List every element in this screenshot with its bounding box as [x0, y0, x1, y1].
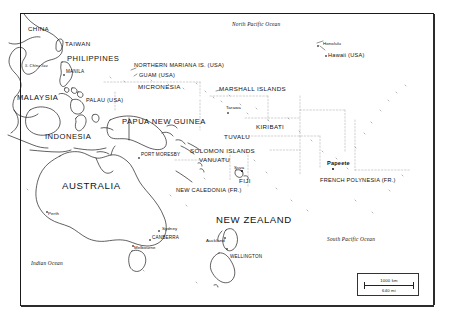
territory-label-northern-mariana-is: NORTHERN MARIANA IS. (USA) — [134, 63, 224, 69]
scale-bar-line — [364, 285, 414, 286]
city-marker-tarawa — [227, 112, 229, 114]
country-label-new-zealand: NEW ZEALAND — [216, 215, 292, 225]
country-label-fiji: FIJI — [239, 178, 251, 184]
country-label-taiwan: TAIWAN — [65, 41, 90, 47]
territory-label-hawaii: Hawaii (USA) — [328, 53, 365, 59]
capital-label-manila: MANILA — [66, 70, 84, 75]
malay-peninsula — [11, 110, 18, 133]
scale-bar: 1000 km 640 mi — [357, 273, 419, 296]
territory-label-french-polynesia: FRENCH POLYNESIA (FR.) — [320, 178, 396, 184]
country-label-kiribati: KIRIBATI — [256, 124, 284, 130]
city-label-suva: Suva — [234, 166, 244, 170]
scale-label-mi: 640 mi — [362, 288, 416, 293]
territory-label-palau: PALAU (USA) — [86, 98, 123, 104]
sea-label-south-china-sea: S. China Sea — [25, 64, 48, 68]
territory-label-new-caledonia: NEW CALEDONIA (FR.) — [176, 188, 242, 194]
city-label-honolulu: Honolulu — [323, 42, 341, 46]
oceania-map: North Pacific Ocean South Pacific Ocean … — [0, 0, 452, 322]
ocean-label-indian: Indian Ocean — [31, 261, 63, 266]
country-label-china: CHINA — [28, 26, 49, 32]
country-label-malaysia: MALAYSIA — [17, 94, 58, 102]
city-label-papeete: Papeete — [327, 161, 350, 167]
city-marker-melbourne — [132, 245, 134, 247]
country-label-philippines: PHILIPPINES — [67, 55, 119, 63]
city-marker-hawaii — [325, 55, 327, 57]
territory-label-guam: GUAM (USA) — [139, 73, 175, 79]
capital-label-port-moresby: PORT MORESBY — [141, 153, 180, 158]
city-marker-auckland — [224, 237, 226, 239]
country-label-indonesia: INDONESIA — [45, 133, 91, 141]
city-label-perth: Perth — [48, 212, 59, 216]
country-label-solomon-islands: SOLOMON ISLANDS — [190, 148, 255, 154]
country-label-micronesia: MICRONESIA — [138, 84, 181, 90]
city-marker-papeete — [332, 168, 334, 170]
capital-label-canberra: CANBERRA — [152, 236, 179, 241]
city-marker-port-moresby — [138, 157, 140, 159]
ocean-label-south-pacific: South Pacific Ocean — [327, 237, 375, 242]
city-marker-canberra — [149, 239, 151, 241]
ocean-label-north-pacific: North Pacific Ocean — [232, 22, 280, 27]
city-marker-manila — [63, 74, 65, 76]
city-label-tarawa: Tarawa — [226, 106, 241, 110]
city-label-melbourne: Melbourne — [134, 246, 156, 250]
city-marker-suva — [241, 170, 243, 172]
country-label-australia: AUSTRALIA — [62, 181, 121, 191]
city-marker-sydney — [158, 230, 160, 232]
city-marker-perth — [46, 211, 48, 213]
city-label-auckland: Auckland — [206, 239, 225, 243]
city-label-sydney: Sydney — [162, 227, 177, 231]
scale-label-km: 1000 km — [362, 278, 416, 283]
city-marker-wellington — [226, 248, 228, 250]
capital-label-wellington: WELLINGTON — [230, 255, 262, 260]
country-label-vanuatu: VANUATU — [199, 157, 230, 163]
country-label-papua-new-guinea: PAPUA NEW GUINEA — [122, 118, 206, 126]
city-marker-honolulu — [317, 45, 319, 47]
country-label-tuvalu: TUVALU — [224, 134, 250, 140]
scale-bar-inner: 1000 km 640 mi — [362, 277, 416, 294]
country-label-marshall-islands: MARSHALL ISLANDS — [219, 86, 286, 92]
